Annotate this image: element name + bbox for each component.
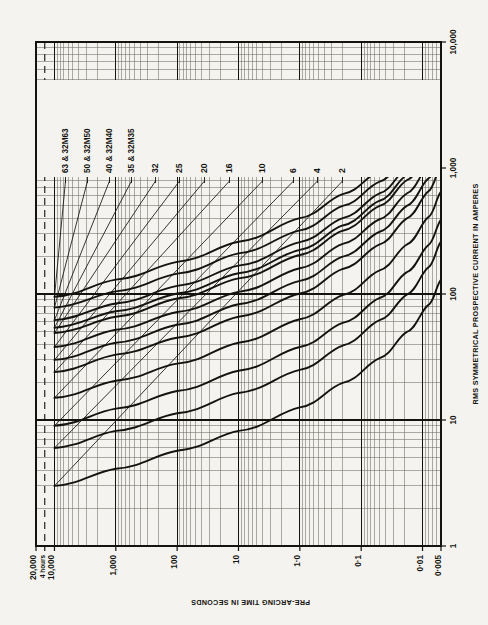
curve-label-c32: 32: [150, 163, 160, 173]
curve-label-c40: 40 & 32M40: [105, 128, 114, 173]
time-tick-label: 20,000: [29, 555, 38, 580]
fuse-time-current-chart: 20,0004 hours10,0001,000100101·00·10·010…: [0, 0, 488, 625]
current-tick-label: 1: [449, 543, 458, 548]
curve-label-c35: 35 & 32M35: [127, 128, 136, 173]
time-tick-label: 4 hours: [39, 555, 46, 579]
label-panel-mask: [37, 80, 440, 177]
time-tick-label: 10: [232, 555, 241, 565]
current-axis-title: RMS SYMMETRICAL PROSPECTIVE CURRENT IN A…: [471, 183, 480, 404]
curve-label-c2: 2: [337, 168, 347, 173]
curve-label-c10: 10: [257, 163, 267, 173]
curve-label-c50: 50 & 32M50: [83, 128, 92, 173]
curve-label-c25: 25: [174, 163, 184, 173]
current-tick-label: 100: [449, 287, 458, 301]
current-tick-label: 10: [449, 415, 458, 425]
time-tick-label: 100: [170, 555, 179, 569]
current-tick-label: 10,000: [449, 29, 458, 54]
chart-figure: 20,0004 hours10,0001,000100101·00·10·010…: [0, 0, 488, 625]
current-tick-label: 1,000: [449, 157, 458, 178]
time-tick-label: 10,000: [47, 555, 56, 580]
curve-label-c63: 63 & 32M63: [61, 128, 70, 173]
time-tick-label: 1,000: [109, 555, 118, 576]
time-tick-label: 1·0: [293, 555, 302, 567]
curve-label-c20: 20: [199, 163, 209, 173]
curve-label-c16: 16: [224, 163, 234, 173]
curve-label-c6: 6: [288, 168, 298, 173]
time-tick-label: 0·01: [416, 555, 425, 572]
curve-label-c4: 4: [312, 168, 322, 173]
time-tick-label: 0·1: [354, 555, 363, 567]
time-axis-title: PRE-ARCING TIME IN SECONDS: [191, 598, 310, 607]
time-tick-label: 0·005: [434, 555, 443, 576]
